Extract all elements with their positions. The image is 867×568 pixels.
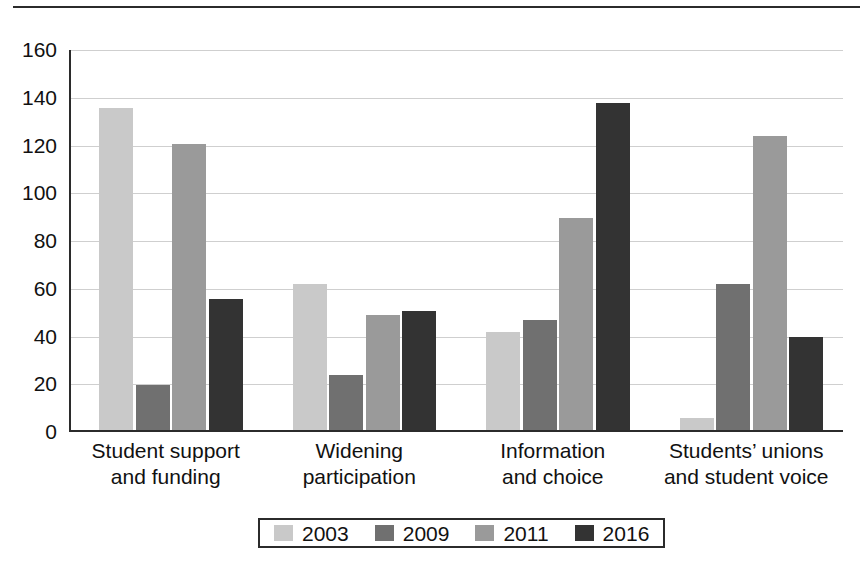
- y-tick-label-60: 60: [0, 278, 57, 299]
- bar-2003-group-4: [680, 418, 714, 430]
- bar-2011-group-4: [753, 136, 787, 430]
- legend-entry-2009[interactable]: 2009: [375, 523, 450, 544]
- bar-2009-group-1: [136, 385, 170, 430]
- bar-2011-group-3: [559, 218, 593, 430]
- legend-label-2016: 2016: [603, 523, 650, 544]
- legend-swatch-2016: [575, 525, 594, 541]
- bar-2016-group-2: [402, 311, 436, 430]
- x-axis-category-labels: Student supportand fundingWideningpartic…: [69, 438, 843, 498]
- bar-2003-group-2: [293, 284, 327, 430]
- legend-entry-2003[interactable]: 2003: [274, 523, 349, 544]
- legend-label-2011: 2011: [503, 523, 548, 544]
- x-axis-label-line: and choice: [456, 464, 650, 490]
- legend-label-2003: 2003: [302, 523, 349, 544]
- bar-chart-figure: 160140120100806040200 Student supportand…: [0, 0, 867, 568]
- y-tick-label-140: 140: [0, 87, 57, 108]
- bar-2003-group-3: [486, 332, 520, 430]
- legend-swatch-2009: [375, 525, 394, 541]
- bar-2009-group-2: [329, 375, 363, 430]
- plot-area: [69, 50, 843, 432]
- y-tick-label-20: 20: [0, 373, 57, 394]
- legend-swatch-2011: [475, 525, 494, 541]
- legend-entry-2011[interactable]: 2011: [475, 523, 548, 544]
- x-axis-label-line: Students’ unions: [650, 438, 844, 464]
- y-tick-label-120: 120: [0, 135, 57, 156]
- y-tick-label-0: 0: [0, 421, 57, 442]
- bar-2009-group-4: [716, 284, 750, 430]
- y-tick-label-40: 40: [0, 326, 57, 347]
- x-axis-label-group-4: Students’ unionsand student voice: [650, 438, 844, 490]
- x-axis-label-line: Widening: [263, 438, 457, 464]
- chart-legend: 2003200920112016: [258, 518, 665, 548]
- y-tick-label-100: 100: [0, 182, 57, 203]
- bar-2011-group-2: [366, 315, 400, 430]
- bar-series-container: [71, 50, 843, 430]
- x-axis-label-line: Information: [456, 438, 650, 464]
- x-axis-label-group-1: Student supportand funding: [69, 438, 263, 490]
- legend-label-2009: 2009: [403, 523, 450, 544]
- legend-entry-2016[interactable]: 2016: [575, 523, 650, 544]
- x-axis-label-group-3: Informationand choice: [456, 438, 650, 490]
- bar-2016-group-4: [789, 337, 823, 430]
- y-tick-label-160: 160: [0, 39, 57, 60]
- x-axis-label-line: Student support: [69, 438, 263, 464]
- bar-2009-group-3: [523, 320, 557, 430]
- legend-swatch-2003: [274, 525, 293, 541]
- bar-2011-group-1: [172, 144, 206, 431]
- bar-2016-group-1: [209, 299, 243, 430]
- x-axis-label-group-2: Wideningparticipation: [263, 438, 457, 490]
- x-axis-label-line: participation: [263, 464, 457, 490]
- bar-2003-group-1: [99, 108, 133, 430]
- y-tick-label-80: 80: [0, 230, 57, 251]
- x-axis-label-line: and funding: [69, 464, 263, 490]
- bar-2016-group-3: [596, 103, 630, 430]
- page-top-rule: [13, 6, 860, 8]
- x-axis-label-line: and student voice: [650, 464, 844, 490]
